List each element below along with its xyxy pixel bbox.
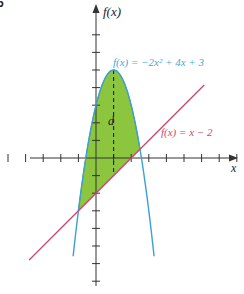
shaded-area: [78, 70, 140, 211]
x-axis-label: x: [230, 161, 237, 175]
y-axis-label: f(x): [103, 4, 121, 19]
parabola-label: f(x) = −2x² + 4x + 3: [113, 56, 205, 69]
line-label: f(x) = x − 2: [161, 126, 213, 139]
graph-figure: f(x) x d f(x) = −2x² + 4x + 3 f(x) = x −…: [0, 0, 244, 294]
distance-label: d: [108, 114, 115, 128]
y-axis-arrow-icon: [93, 4, 100, 13]
shaded-region: [78, 70, 140, 211]
